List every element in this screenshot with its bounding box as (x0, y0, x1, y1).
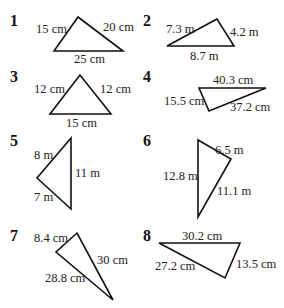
side-label: 11 m (75, 166, 100, 180)
side-label: 40.3 cm (213, 73, 254, 87)
side-label: 8.7 m (190, 49, 219, 63)
figure-7: 7 8.4 cm 30 cm 28.8 cm (10, 227, 128, 300)
figure-1: 1 15 cm 20 cm 25 cm (10, 12, 134, 66)
side-label: 8 m (34, 148, 53, 162)
side-label: 12 cm (100, 82, 131, 96)
side-label: 12.8 m (163, 169, 198, 183)
figure-number: 7 (10, 227, 18, 244)
triangle-exercise-sheet: 1 15 cm 20 cm 25 cm 2 7.3 m 4.2 m 8.7 m … (0, 0, 284, 308)
side-label: 7.3 m (166, 22, 195, 36)
side-label: 11.1 m (217, 184, 252, 198)
side-label: 7 m (34, 190, 53, 204)
figure-5: 5 8 m 11 m 7 m (10, 132, 100, 209)
figure-8: 8 30.2 cm 27.2 cm 13.5 cm (143, 227, 277, 278)
side-label: 15 cm (66, 116, 97, 130)
figure-number: 4 (143, 68, 151, 85)
figure-4: 4 40.3 cm 15.5 cm 37.2 cm (143, 68, 271, 114)
side-label: 6.5 m (215, 143, 244, 157)
figure-number: 5 (10, 132, 18, 149)
side-label: 12 cm (34, 82, 65, 96)
side-label: 4.2 m (230, 25, 259, 39)
figure-number: 6 (143, 132, 151, 149)
figure-number: 1 (10, 12, 18, 29)
side-label: 15 cm (36, 22, 67, 36)
side-label: 27.2 cm (155, 259, 196, 273)
figure-2: 2 7.3 m 4.2 m 8.7 m (143, 12, 259, 63)
side-label: 30.2 cm (182, 229, 223, 243)
side-label: 15.5 cm (164, 94, 205, 108)
figure-number: 2 (143, 12, 151, 29)
side-label: 37.2 cm (230, 100, 271, 114)
figure-3: 3 12 cm 12 cm 15 cm (10, 68, 131, 130)
side-label: 30 cm (97, 253, 128, 267)
side-label: 25 cm (74, 52, 105, 66)
side-label: 8.4 cm (34, 231, 68, 245)
figure-6: 6 6.5 m 12.8 m 11.1 m (143, 132, 252, 217)
side-label: 13.5 cm (236, 257, 277, 271)
figure-number: 3 (10, 68, 18, 85)
side-label: 28.8 cm (45, 271, 86, 285)
figure-number: 8 (143, 227, 151, 244)
side-label: 20 cm (103, 20, 134, 34)
